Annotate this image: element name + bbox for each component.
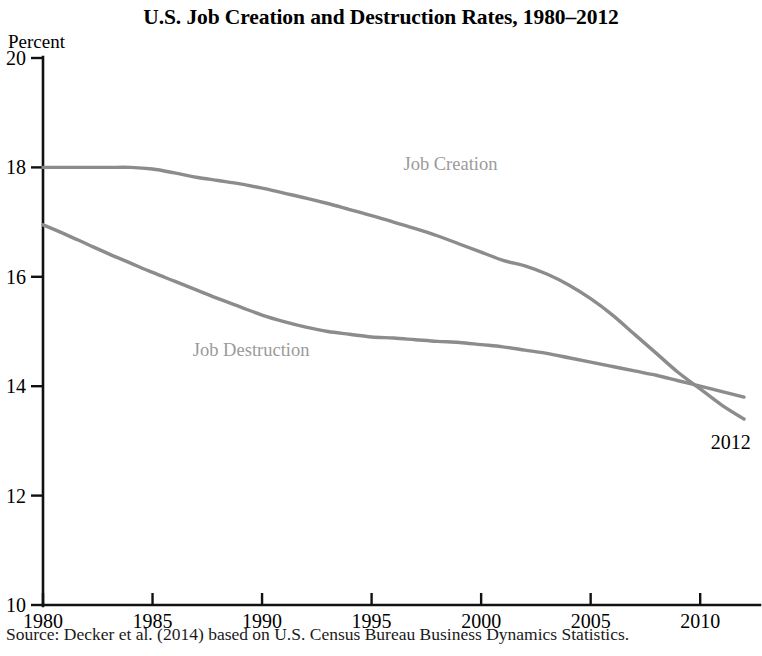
source-note-container: Source: Decker et al. (2014) based on U.… xyxy=(6,624,758,645)
chart-title: U.S. Job Creation and Destruction Rates,… xyxy=(143,5,618,29)
series-label-job-creation: Job Creation xyxy=(403,154,497,174)
y-tick-label: 20 xyxy=(6,47,26,69)
data-series-group xyxy=(43,167,744,419)
series-line-job-destruction xyxy=(43,225,744,397)
series-label-job-destruction: Job Destruction xyxy=(193,340,310,360)
y-axis-ticks: 101214161820 xyxy=(6,47,43,616)
series-line-job-creation xyxy=(43,167,744,419)
job-creation-destruction-line-chart: U.S. Job Creation and Destruction Rates,… xyxy=(0,0,762,656)
y-tick-label: 12 xyxy=(6,485,26,507)
y-tick-label: 14 xyxy=(6,375,26,397)
y-tick-label: 16 xyxy=(6,266,26,288)
source-note: Source: Decker et al. (2014) based on U.… xyxy=(6,624,629,644)
chart-figure: U.S. Job Creation and Destruction Rates,… xyxy=(0,0,762,656)
chart-annotations: 2012 xyxy=(711,431,751,453)
y-tick-label: 18 xyxy=(6,156,26,178)
annotation-2012: 2012 xyxy=(711,431,751,453)
